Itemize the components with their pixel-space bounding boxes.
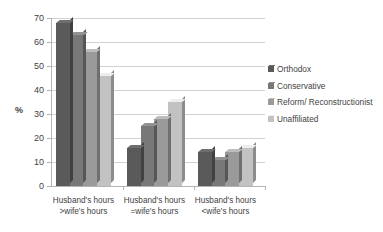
bar-side-face xyxy=(182,96,185,183)
legend-label: Unaffiliated xyxy=(277,114,318,124)
legend-swatch xyxy=(268,99,274,105)
x-axis-separator xyxy=(265,186,266,190)
legend-label: Conservative xyxy=(277,81,325,91)
x-axis-category-label: Husband's hours=wife's hours xyxy=(115,196,193,217)
y-axis-tick-label: 60 xyxy=(24,38,44,47)
bar-side-face xyxy=(154,120,157,183)
legend-swatch xyxy=(268,66,274,72)
bar-side-face xyxy=(83,29,86,183)
bar-side-face xyxy=(111,70,114,183)
legend-item[interactable]: Orthodox xyxy=(268,64,382,75)
y-axis-tick-label: 70 xyxy=(24,14,44,23)
chart-legend: OrthodoxConservativeReform/ Reconstructi… xyxy=(268,64,382,130)
x-axis-category-label: Husband's hours>wife's hours xyxy=(44,196,122,217)
y-axis-tick-label: 20 xyxy=(24,134,44,143)
y-axis-tick-label: 50 xyxy=(24,62,44,71)
bar-face xyxy=(127,148,141,186)
legend-swatch xyxy=(268,116,274,122)
category-label-line: =wife's hours xyxy=(115,207,193,218)
bar-chart: % 010203040506070 Husband's hours>wife's… xyxy=(0,0,383,232)
category-label-line: Husband's hours xyxy=(115,196,193,207)
bar-side-face xyxy=(212,146,215,183)
y-axis-tick-label: 10 xyxy=(24,158,44,167)
bar xyxy=(127,148,141,186)
x-axis-separator xyxy=(123,186,124,190)
bar-group xyxy=(56,18,111,186)
y-axis-tick-label: 0 xyxy=(24,182,44,191)
bar-side-face xyxy=(168,113,171,183)
legend-swatch-top xyxy=(269,82,275,83)
bar-side-face xyxy=(70,17,73,183)
x-axis-category-label: Husband's hours<wife's hours xyxy=(186,196,264,217)
bar xyxy=(56,23,70,186)
plot-area xyxy=(52,18,265,186)
bar-side-face xyxy=(97,46,100,183)
bar-face xyxy=(56,23,70,186)
category-label-line: <wife's hours xyxy=(186,207,264,218)
legend-item[interactable]: Reform/ Reconstructionist xyxy=(268,97,382,108)
bar-face xyxy=(198,152,212,186)
y-axis-tick xyxy=(47,186,52,187)
y-axis-tick-label: 30 xyxy=(24,110,44,119)
bar-group xyxy=(127,18,182,186)
legend-swatch-top xyxy=(269,65,275,66)
bar-side-face xyxy=(253,142,256,183)
category-label-line: >wife's hours xyxy=(44,207,122,218)
bar-group xyxy=(198,18,253,186)
legend-swatch-top xyxy=(269,115,275,116)
bar-side-face xyxy=(239,146,242,183)
legend-label: Orthodox xyxy=(277,64,311,74)
legend-swatch xyxy=(268,83,274,89)
category-label-line: Husband's hours xyxy=(44,196,122,207)
bar-side-face xyxy=(141,142,144,183)
legend-label: Reform/ Reconstructionist xyxy=(277,97,372,107)
x-axis-separator xyxy=(194,186,195,190)
legend-item[interactable]: Unaffiliated xyxy=(268,114,382,125)
legend-item[interactable]: Conservative xyxy=(268,81,382,92)
legend-swatch-top xyxy=(269,98,275,99)
bar xyxy=(198,152,212,186)
y-axis-tick-label: 40 xyxy=(24,86,44,95)
x-axis-line xyxy=(52,186,265,187)
category-label-line: Husband's hours xyxy=(186,196,264,207)
